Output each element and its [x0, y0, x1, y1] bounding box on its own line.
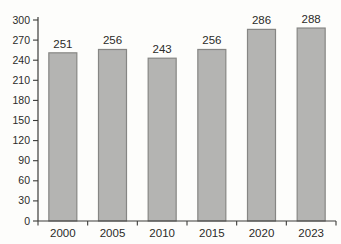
x-category-label: 2015	[199, 227, 225, 239]
y-tick-label: 300	[12, 14, 30, 26]
bar-chart: 0306090120150180210240270300251200025620…	[0, 0, 341, 244]
bar	[99, 49, 127, 221]
bar	[198, 49, 226, 221]
bar-value-label: 256	[202, 34, 221, 46]
x-category-label: 2020	[249, 227, 275, 239]
y-tick-label: 120	[12, 134, 30, 146]
bar-value-label: 288	[302, 13, 321, 25]
y-tick-label: 60	[18, 174, 30, 186]
y-tick-label: 150	[12, 114, 30, 126]
bar	[148, 58, 176, 221]
bar-value-label: 251	[53, 38, 72, 50]
y-tick-label: 270	[12, 34, 30, 46]
y-tick-label: 30	[18, 194, 30, 206]
bar-value-label: 286	[252, 14, 271, 26]
y-tick-label: 180	[12, 94, 30, 106]
bar-value-label: 256	[103, 34, 122, 46]
bar-chart-canvas: 0306090120150180210240270300251200025620…	[0, 0, 341, 244]
x-category-label: 2000	[50, 227, 76, 239]
y-tick-label: 0	[24, 215, 30, 227]
x-category-label: 2023	[298, 227, 324, 239]
bar	[297, 28, 325, 221]
x-category-label: 2010	[149, 227, 175, 239]
bar	[248, 29, 276, 221]
bar	[49, 53, 77, 221]
bar-value-label: 243	[153, 43, 172, 55]
y-tick-label: 240	[12, 54, 30, 66]
x-category-label: 2005	[100, 227, 126, 239]
y-tick-label: 90	[18, 154, 30, 166]
y-tick-label: 210	[12, 74, 30, 86]
